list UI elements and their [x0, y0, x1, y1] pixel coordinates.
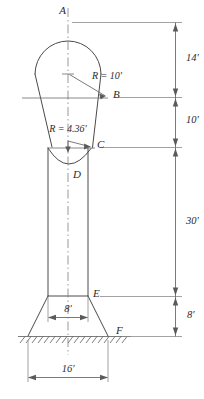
point-label-A: A	[58, 4, 66, 16]
dim-30-arrow-bottom	[173, 288, 178, 296]
figure-container: A B C D E F R = 10' R = 4.36' 14' 10' 30…	[0, 0, 204, 399]
dim-10-arrow-top	[173, 99, 178, 107]
taper-left-line	[35, 74, 52, 147]
dim-8h-arrow-left	[48, 315, 56, 320]
radius-436-arrowhead	[84, 144, 91, 150]
fillet-arc	[48, 148, 91, 164]
base-right-flare	[88, 296, 108, 336]
base-left-flare	[28, 296, 48, 336]
point-label-B: B	[113, 88, 120, 100]
dimension-label-8-vertical: 8'	[187, 309, 195, 320]
dim-30-arrow-top	[173, 149, 178, 157]
dim-8v-arrow-top	[173, 298, 178, 306]
ground-hatch-marks	[20, 337, 127, 344]
dimension-label-16-horizontal: 16'	[62, 363, 76, 374]
point-label-D: D	[72, 168, 81, 180]
radius-label-fillet: R = 4.36'	[48, 123, 87, 134]
point-label-C: C	[97, 138, 105, 150]
dim-14-arrow-bottom	[173, 89, 178, 97]
taper-right-line	[93, 74, 102, 148]
dimension-label-30: 30'	[185, 215, 200, 226]
point-label-E: E	[92, 287, 100, 299]
dimension-label-14: 14'	[186, 52, 200, 63]
point-label-F: F	[115, 324, 123, 336]
dim-14-arrow-top	[173, 24, 178, 32]
dim-16h-arrow-left	[28, 375, 36, 380]
dimension-label-10: 10'	[186, 114, 200, 125]
dimension-label-8-horizontal: 8'	[64, 303, 72, 314]
radius-label-sphere: R = 10'	[91, 70, 123, 81]
elevation-diagram: A B C D E F R = 10' R = 4.36' 14' 10' 30…	[0, 0, 204, 399]
dim-8h-arrow-right	[80, 315, 88, 320]
dim-8v-arrow-bottom	[173, 328, 178, 336]
dim-10-arrow-bottom	[173, 139, 178, 147]
dim-16h-arrow-right	[100, 375, 108, 380]
radius-436-tail-arrowhead	[65, 147, 71, 153]
